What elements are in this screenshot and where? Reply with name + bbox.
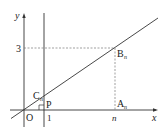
svg-text:n: n xyxy=(124,104,127,110)
svg-text:n: n xyxy=(124,54,127,60)
point-label-cn: C n xyxy=(33,90,43,102)
coordinate-diagram: y x O 1 n 3 P C n B n A n xyxy=(0,0,168,133)
point-label-p: P xyxy=(46,99,52,110)
main-line xyxy=(11,18,158,119)
svg-text:B: B xyxy=(117,48,124,59)
svg-text:C: C xyxy=(33,90,40,101)
tick-label-1: 1 xyxy=(47,113,52,123)
y-axis-label: y xyxy=(14,10,20,21)
y-axis-arrow-icon xyxy=(22,13,25,18)
x-axis-label: x xyxy=(151,112,157,123)
point-label-bn: B n xyxy=(117,48,127,60)
svg-text:n: n xyxy=(40,96,43,102)
right-angle-marker xyxy=(39,105,44,110)
origin-label: O xyxy=(26,112,33,123)
tick-label-3: 3 xyxy=(16,43,21,54)
point-label-an: A n xyxy=(117,98,127,110)
tick-label-n: n xyxy=(112,113,117,123)
